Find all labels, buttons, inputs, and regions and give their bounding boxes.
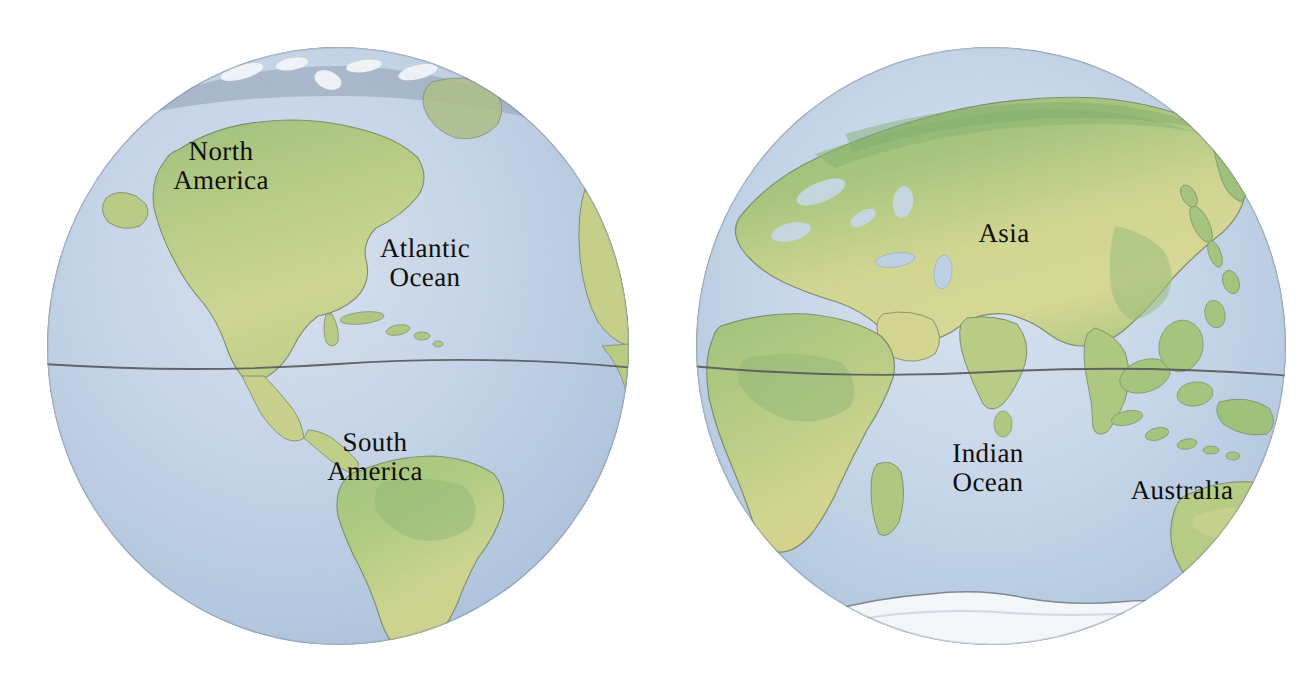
landmass-europe-edge [602, 115, 630, 176]
eastern-hemisphere-artwork [695, 46, 1287, 646]
illustration-canvas: North America Atlantic Ocean South Ameri… [0, 0, 1311, 686]
western-hemisphere-artwork [46, 46, 630, 646]
paper-grain-east [696, 47, 1286, 645]
globe-western-hemisphere [46, 46, 630, 646]
globe-eastern-hemisphere [695, 46, 1287, 646]
paper-grain-west [47, 47, 629, 645]
